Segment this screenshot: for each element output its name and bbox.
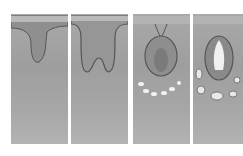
panel-bell-stage (133, 14, 190, 144)
panel-bud-stage (11, 14, 68, 144)
panel-cap-stage (71, 14, 128, 144)
crown-stage-drawing (193, 14, 243, 144)
bud-stage-drawing (11, 14, 68, 144)
panel-crown-stage (193, 14, 243, 144)
cap-stage-drawing (71, 14, 128, 144)
bone-islands (138, 81, 181, 96)
bell-stage-drawing (133, 14, 190, 144)
